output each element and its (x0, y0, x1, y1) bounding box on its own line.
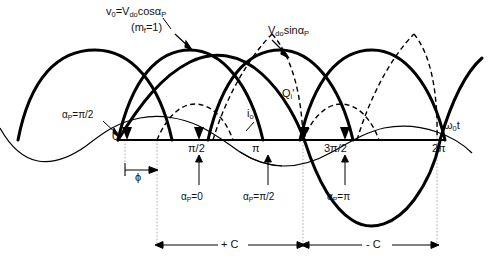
label-alpha-sub: P (161, 10, 166, 19)
x-tick-pi: π (252, 143, 260, 154)
label-mf-close: =1) (146, 21, 162, 33)
leader-output-current (246, 122, 254, 131)
annotation-alpha-pi-over-2: αP=π/2 (62, 110, 93, 122)
annot3-rest: =π/2 (253, 191, 274, 202)
label-modulation-index: (mf=1) (131, 22, 162, 35)
label-vdo-alpha-sub: P (304, 29, 309, 38)
label-i-sub: o (249, 112, 253, 121)
dimension-label-minus-c: - C (366, 239, 381, 250)
label-vdo-sub2: do (275, 29, 283, 38)
alpha-pointer-arrows (196, 155, 349, 185)
label-cos: cosα (138, 5, 161, 17)
axis-tick-markers (122, 127, 350, 140)
label-eq: =V (116, 5, 130, 17)
figure-canvas: v0=VdocosαP (mf=1) VdosinαP Qi' io αP=π/… (0, 0, 488, 272)
label-vdo-rest: sinα (284, 24, 304, 36)
annotation-alpha-pi: αP=π (327, 192, 350, 204)
label-mf-open: (m (131, 21, 144, 33)
annot4-rest: =π (337, 191, 350, 202)
label-q-prime: ' (292, 87, 294, 99)
guide-lines (125, 112, 437, 245)
annot1-rest: =π/2 (72, 109, 93, 120)
label-vdo-sub: do (129, 10, 137, 19)
waveform-plot (0, 0, 488, 272)
label-output-voltage: v0=VdocosαP (106, 6, 166, 19)
label-phi: ϕ (135, 172, 141, 183)
phi-dimension (125, 163, 158, 176)
curve-output-current-tail (240, 152, 282, 166)
label-output-current: io (247, 108, 254, 121)
axis-origin-label: 0 (112, 130, 119, 142)
label-q: Q (282, 87, 291, 99)
curve-output-current (0, 116, 472, 166)
dimension-label-plus-c: + C (221, 239, 238, 250)
annotation-alpha-pi-over-2-bottom: αP=π/2 (243, 192, 274, 204)
label-vdo-sin: VdosinαP (268, 25, 309, 38)
x-tick-3pi-over-2: 3π/2 (324, 143, 347, 154)
annot2-rest: =0 (191, 191, 202, 202)
label-reactive-qi: Qi' (282, 88, 294, 101)
axis-label-omega-t: ω0t (444, 120, 460, 133)
x-tick-2pi: 2π (432, 143, 446, 154)
axis-label-omega-sub: 0 (453, 124, 457, 133)
leader-output-voltage (175, 34, 192, 50)
annotation-alpha-0: αP=0 (181, 192, 203, 204)
leader-mf (163, 18, 171, 29)
x-tick-pi-over-2: π/2 (188, 143, 205, 154)
